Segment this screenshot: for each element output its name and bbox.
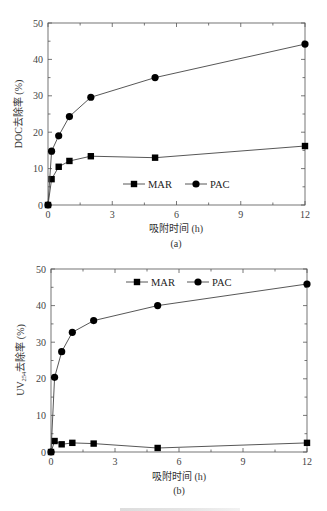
data-point-mar (69, 440, 75, 446)
y-tick-label: 40 (36, 300, 46, 311)
data-point-pac (48, 148, 55, 155)
y-tick-label: 0 (38, 200, 43, 211)
data-point-pac (301, 41, 308, 48)
y-tick-label: 0 (41, 447, 46, 458)
data-point-mar (58, 441, 64, 447)
chart-panel-b: 03691201020304050 MARPAC 吸附时间 (h) (b) UV… (14, 264, 312, 498)
x-tick-label: 6 (174, 209, 179, 220)
x-axis-title-a: 吸附时间 (h) (149, 222, 203, 235)
data-point-pac (87, 94, 94, 101)
axis-ticks-a (48, 23, 305, 205)
x-tick-label: 0 (46, 209, 51, 220)
y-tick-label: 20 (33, 127, 43, 138)
data-point-mar (51, 438, 57, 444)
x-tick-label: 3 (113, 456, 118, 467)
series-lines-a (44, 41, 308, 209)
y-tick-label: 10 (33, 163, 43, 174)
legend-label-pac: PAC (212, 277, 231, 288)
data-point-pac (69, 329, 76, 336)
y-tick-label: 30 (36, 337, 46, 348)
data-point-pac (303, 280, 310, 287)
legend-a: MARPAC (123, 179, 229, 190)
x-tick-label: 12 (302, 456, 312, 467)
data-point-mar (304, 440, 310, 446)
x-tick-label: 3 (110, 209, 115, 220)
y-tick-label: 10 (36, 410, 46, 421)
data-point-pac (47, 448, 54, 455)
data-point-mar (90, 440, 96, 446)
legend-label-mar: MAR (151, 277, 175, 288)
axis-ticks-b (51, 269, 307, 452)
y-tick-label: 30 (33, 90, 43, 101)
y-tick-label: 40 (33, 54, 43, 65)
y-axis-title-b-main: UV (15, 381, 26, 396)
figure-canvas: 03691201020304050 MARPAC 吸附时间 (h) (a) DO… (0, 0, 327, 511)
plot-frame-a (48, 23, 305, 205)
data-point-mar (66, 158, 72, 164)
legend-label-mar: MAR (148, 179, 172, 190)
panel-label-a: (a) (170, 238, 181, 250)
y-axis-title-b-rest: 去除率 (%) (14, 324, 27, 372)
data-point-mar (56, 164, 62, 170)
data-point-mar (88, 153, 94, 159)
data-point-pac (66, 113, 73, 120)
legend-b: MARPAC (126, 277, 231, 288)
data-point-pac (51, 374, 58, 381)
y-tick-label: 50 (33, 18, 43, 29)
data-point-pac (154, 302, 161, 309)
legend-marker-pac-icon (194, 278, 201, 285)
data-point-mar (154, 445, 160, 451)
series-lines-b (47, 280, 310, 455)
legend-label-pac: PAC (210, 179, 229, 190)
x-tick-label: 9 (238, 209, 243, 220)
data-point-pac (90, 317, 97, 324)
y-tick-label: 50 (36, 264, 46, 275)
data-point-pac (44, 201, 51, 208)
series-line-pac (51, 284, 307, 452)
legend-marker-pac-icon (192, 180, 199, 187)
x-tick-label: 9 (241, 456, 246, 467)
data-point-mar (152, 154, 158, 160)
y-axis-title-b: UV254去除率 (%) (14, 324, 27, 396)
x-axis-title-b: 吸附时间 (h) (152, 470, 206, 483)
data-point-pac (58, 348, 65, 355)
plot-frame-b (51, 269, 307, 452)
data-point-pac (151, 74, 158, 81)
y-axis-title-a: DOC去除率 (%) (12, 80, 25, 149)
legend-marker-mar-icon (134, 279, 140, 285)
x-tick-label: 6 (177, 456, 182, 467)
series-line-pac (48, 44, 305, 205)
y-tick-label: 20 (36, 373, 46, 384)
chart-panel-a: 03691201020304050 MARPAC 吸附时间 (h) (a) DO… (12, 18, 310, 251)
legend-marker-mar-icon (131, 181, 137, 187)
series-line-mar (48, 146, 305, 205)
panel-label-b: (b) (173, 485, 185, 497)
x-tick-label: 12 (300, 209, 310, 220)
x-tick-label: 0 (49, 456, 54, 467)
data-point-pac (55, 132, 62, 139)
data-point-mar (302, 143, 308, 149)
axis-tick-labels-b: 03691201020304050 (36, 264, 312, 468)
